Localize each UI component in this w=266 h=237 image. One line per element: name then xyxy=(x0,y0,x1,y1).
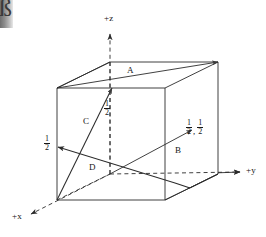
vector-label-A: A xyxy=(127,66,134,75)
fraction-x-half: 1 2 xyxy=(44,135,50,153)
fraction-b-first-denominator: 2 xyxy=(186,127,192,136)
fraction-pair-separator: , xyxy=(193,127,196,136)
axis-label-y: +y xyxy=(246,166,256,175)
fraction-z-half-numerator: 1 xyxy=(104,100,110,108)
fraction-b-second: 1 2 xyxy=(197,119,203,137)
axis-label-z: +z xyxy=(104,14,113,23)
scan-edge-artifact: ß xyxy=(0,0,13,28)
artifact-glyph: ß xyxy=(0,0,12,21)
fraction-b-first-numerator: 1 xyxy=(186,119,192,127)
fraction-x-half-denominator: 2 xyxy=(44,143,50,152)
fraction-b-second-denominator: 2 xyxy=(197,127,203,136)
vector-label-D: D xyxy=(89,163,96,172)
axis-label-x: +x xyxy=(12,212,22,221)
fraction-x-half-numerator: 1 xyxy=(44,135,50,143)
vector-label-B: B xyxy=(175,146,181,155)
cube-front-face xyxy=(57,88,165,200)
vector-A xyxy=(57,62,218,88)
vector-D xyxy=(58,147,218,188)
vector-label-C: C xyxy=(83,117,89,126)
fraction-z-half: 1 2 xyxy=(104,100,110,118)
fraction-b-first: 1 2 xyxy=(186,119,192,137)
fraction-pair-b-point: 1 2 , 1 2 xyxy=(186,119,203,137)
figure-canvas: ß +z +y +x A B C D 1 2 1 2 1 2 , 1 2 xyxy=(0,0,266,237)
cube-direction-svg xyxy=(0,0,266,237)
fraction-b-second-numerator: 1 xyxy=(197,119,203,127)
axis-x-line xyxy=(31,174,110,214)
fraction-z-half-denominator: 2 xyxy=(104,108,110,117)
